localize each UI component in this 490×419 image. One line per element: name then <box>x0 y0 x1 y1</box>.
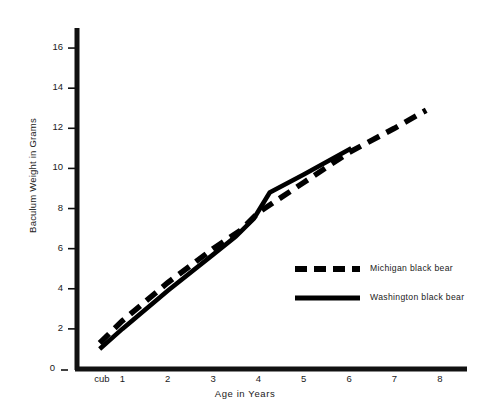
legend-label-michigan-black-bear: Michigan black bear <box>370 263 453 273</box>
legend-swatches <box>295 269 360 298</box>
x-tick-label-2: 2 <box>151 373 185 384</box>
y-tick-label-16: 16 <box>33 41 63 52</box>
y-tick-label-12: 12 <box>33 121 63 132</box>
y-tick-label-8: 8 <box>33 202 63 213</box>
x-tick-label-4: 4 <box>241 373 275 384</box>
x-tick-label-1: 1 <box>105 373 139 384</box>
x-tick-label-6: 6 <box>332 373 366 384</box>
y-tick-label-0: 0 <box>25 362 55 373</box>
x-tick-label-5: 5 <box>287 373 321 384</box>
y-tick-label-2: 2 <box>33 322 63 333</box>
y-tick-marks <box>61 48 75 370</box>
series-layer <box>100 110 427 349</box>
y-tick-label-14: 14 <box>33 81 63 92</box>
chart-container: Baculum Weight in Grams Age in Years 024… <box>0 0 490 419</box>
x-tick-label-8: 8 <box>423 373 457 384</box>
series-line-washington-black-bear <box>100 148 352 349</box>
x-axis-title: Age in Years <box>0 388 490 399</box>
legend-label-washington-black-bear: Washington black bear <box>370 292 464 302</box>
y-tick-label-4: 4 <box>33 282 63 293</box>
y-tick-label-6: 6 <box>33 242 63 253</box>
chart-plot-svg <box>0 0 490 419</box>
y-tick-label-10: 10 <box>33 161 63 172</box>
x-tick-label-3: 3 <box>196 373 230 384</box>
x-tick-label-7: 7 <box>377 373 411 384</box>
